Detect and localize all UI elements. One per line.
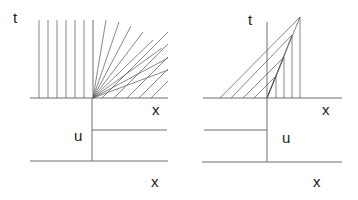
slanted-characteristic xyxy=(231,35,292,98)
slanted-characteristic xyxy=(139,69,168,98)
right-crossing-characteristics xyxy=(220,17,300,98)
slanted-characteristic xyxy=(254,76,276,98)
fan-characteristic xyxy=(267,76,276,98)
left-x-label-bottom: x xyxy=(151,173,159,190)
left-u-label: u xyxy=(74,127,82,144)
fan-characteristic xyxy=(93,32,143,98)
slanted-characteristic xyxy=(114,44,168,98)
left-vertical-characteristics xyxy=(39,20,93,98)
right-x-label-bottom: x xyxy=(313,173,321,190)
right-u-label: u xyxy=(282,129,290,146)
characteristics-figure: t x u x t x u x xyxy=(0,0,358,200)
right-initial-data-plot: u x xyxy=(202,98,342,190)
right-x-label-top: x xyxy=(322,101,330,118)
fan-characteristic xyxy=(93,70,168,98)
left-t-label: t xyxy=(13,9,18,26)
right-characteristics-plot: t x xyxy=(203,11,342,118)
slanted-characteristic xyxy=(243,57,284,98)
left-initial-data-plot: u x xyxy=(30,98,168,190)
right-t-label: t xyxy=(248,11,253,28)
left-x-label-top: x xyxy=(152,101,160,118)
slanted-characteristic xyxy=(127,57,168,98)
left-characteristics-plot: t x xyxy=(13,9,168,118)
left-fan-characteristics xyxy=(93,20,168,98)
slanted-characteristic xyxy=(220,17,300,98)
